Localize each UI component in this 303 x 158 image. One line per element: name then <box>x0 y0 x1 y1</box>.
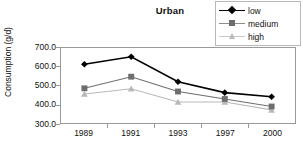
data-point-medium-1997[interactable] <box>222 96 228 102</box>
data-point-low-1991[interactable] <box>128 54 135 61</box>
x-tick-mark <box>107 124 108 128</box>
data-point-low-1989[interactable] <box>81 61 88 68</box>
legend-key-medium <box>218 18 246 30</box>
y-tick-mark <box>56 124 60 125</box>
y-tick-label: 600.0 <box>12 62 56 71</box>
y-tick-label: 300.0 <box>12 120 56 129</box>
data-point-medium-1991[interactable] <box>128 74 134 80</box>
x-tick-label: 1991 <box>107 129 154 143</box>
diamond-marker-icon <box>228 5 236 13</box>
plot-area <box>60 47 296 124</box>
y-tick-label: 500.0 <box>12 81 56 90</box>
chart-title: Urban <box>120 5 220 16</box>
x-tick-mark <box>201 124 202 128</box>
data-point-low-1997[interactable] <box>221 89 228 96</box>
x-tick-label: 2000 <box>249 129 296 143</box>
legend-item-low[interactable]: low <box>218 4 298 17</box>
legend-item-high[interactable]: high <box>218 30 298 43</box>
x-tick-mark <box>154 124 155 128</box>
legend-key-low <box>218 5 246 17</box>
legend-item-medium[interactable]: medium <box>218 17 298 30</box>
data-point-medium-2000[interactable] <box>269 104 275 110</box>
series-layer <box>81 54 275 113</box>
square-marker-icon <box>229 20 235 26</box>
y-tick-label: 400.0 <box>12 100 56 109</box>
x-tick-label: 1997 <box>202 129 249 143</box>
legend-label-medium: medium <box>246 19 278 29</box>
data-point-low-2000[interactable] <box>268 93 275 100</box>
y-tick-label: 700.0 <box>12 43 56 52</box>
triangle-marker-icon <box>229 33 235 39</box>
legend-key-high <box>218 31 246 43</box>
legend-label-low: low <box>246 6 261 16</box>
x-axis-tick-labels: 1989 1991 1993 1997 2000 <box>60 129 296 143</box>
legend-label-high: high <box>246 32 264 42</box>
plot-svg <box>61 48 295 123</box>
chart-legend: low medium high <box>215 1 301 46</box>
x-tick-mark <box>248 124 249 128</box>
x-tick-label: 1989 <box>60 129 107 143</box>
y-axis-tick-labels: 700.0 600.0 500.0 400.0 300.0 <box>12 0 56 158</box>
chart-container: Urban low medium high Consumption (g <box>0 0 303 158</box>
x-tick-label: 1993 <box>154 129 201 143</box>
data-point-low-1993[interactable] <box>175 78 182 85</box>
data-point-medium-1993[interactable] <box>175 89 181 95</box>
data-point-medium-1989[interactable] <box>81 85 87 91</box>
